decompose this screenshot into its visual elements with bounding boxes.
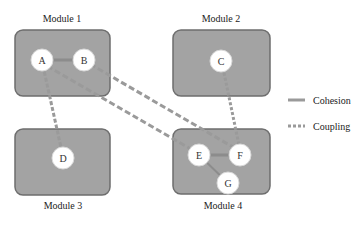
cohesion-legend-label: Cohesion [313, 95, 351, 106]
module-3-label: Module 3 [44, 200, 83, 211]
coupling-legend-label: Coupling [313, 121, 350, 132]
svg-text:F: F [237, 150, 243, 161]
node-a: A [31, 49, 53, 71]
module-4-label: Module 4 [204, 200, 243, 211]
svg-text:D: D [59, 153, 66, 164]
node-c: C [210, 50, 232, 72]
svg-text:B: B [81, 55, 88, 66]
module-2-label: Module 2 [202, 13, 241, 24]
node-f: F [229, 144, 251, 166]
svg-text:C: C [218, 56, 225, 67]
coupling-cohesion-diagram: Module 1 Module 2 Module 3 Module 4 A B … [0, 0, 362, 225]
svg-text:G: G [224, 178, 231, 189]
node-e: E [188, 144, 210, 166]
svg-text:A: A [38, 55, 46, 66]
module-1-label: Module 1 [43, 13, 82, 24]
node-d: D [52, 147, 74, 169]
svg-text:E: E [196, 150, 202, 161]
legend: Cohesion Coupling [288, 95, 351, 132]
module-1-box [15, 30, 110, 96]
node-g: G [217, 172, 239, 194]
node-b: B [73, 49, 95, 71]
